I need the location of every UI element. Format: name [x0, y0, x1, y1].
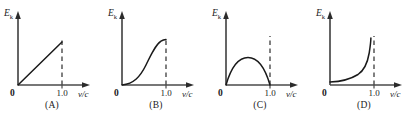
x-axis-label: v/c [286, 89, 297, 99]
panel-c: Ek 0 1.0 v/c (C) [208, 0, 312, 123]
x-axis-label: v/c [182, 89, 193, 99]
y-axis-label: Ek [107, 8, 118, 20]
x-axis-arrow-icon [82, 82, 90, 88]
panel-a: Ek 0 1.0 v/c (A) [0, 0, 104, 123]
y-axis-arrow-icon [327, 11, 333, 19]
x-axis-label: v/c [78, 89, 89, 99]
panel-c-caption: (C) [208, 100, 312, 110]
panel-a-plot: Ek 0 1.0 v/c [0, 0, 104, 100]
y-axis-arrow-icon [119, 11, 125, 19]
panel-d-plot: Ek 0 1.0 v/c [312, 0, 416, 100]
panel-b-plot: Ek 0 1.0 v/c [104, 0, 208, 100]
panel-c-plot: Ek 0 1.0 v/c [208, 0, 312, 100]
y-axis-arrow-icon [15, 11, 21, 19]
x-axis-label: v/c [390, 89, 401, 99]
panel-d-caption: (D) [312, 100, 416, 110]
panel-a-caption: (A) [0, 100, 104, 110]
y-axis-label: Ek [211, 8, 222, 20]
curve-path-c [226, 58, 270, 86]
curve-path-a [18, 42, 62, 85]
x-axis-tick-label: 1.0 [264, 88, 276, 98]
curve-path-b [122, 40, 166, 86]
panel-b: Ek 0 1.0 v/c (B) [104, 0, 208, 123]
x-axis-arrow-icon [186, 82, 194, 88]
panel-d: Ek 0 1.0 v/c (D) [312, 0, 416, 123]
origin-label: 0 [10, 88, 15, 98]
x-axis-arrow-icon [290, 82, 298, 88]
origin-label: 0 [218, 88, 223, 98]
origin-label: 0 [322, 88, 327, 98]
figure-panel-row: — — — — — — Ek 0 1.0 v/c (A) [0, 0, 419, 123]
curve-path-d [330, 38, 371, 82]
x-axis-arrow-icon [394, 82, 402, 88]
x-axis-tick-label: 1.0 [56, 88, 68, 98]
y-axis-label: Ek [315, 8, 326, 20]
y-axis-label: Ek [3, 8, 14, 20]
x-axis-tick-label: 1.0 [368, 88, 380, 98]
x-axis-tick-label: 1.0 [160, 88, 172, 98]
y-axis-arrow-icon [223, 11, 229, 19]
panel-b-caption: (B) [104, 100, 208, 110]
origin-label: 0 [114, 88, 119, 98]
